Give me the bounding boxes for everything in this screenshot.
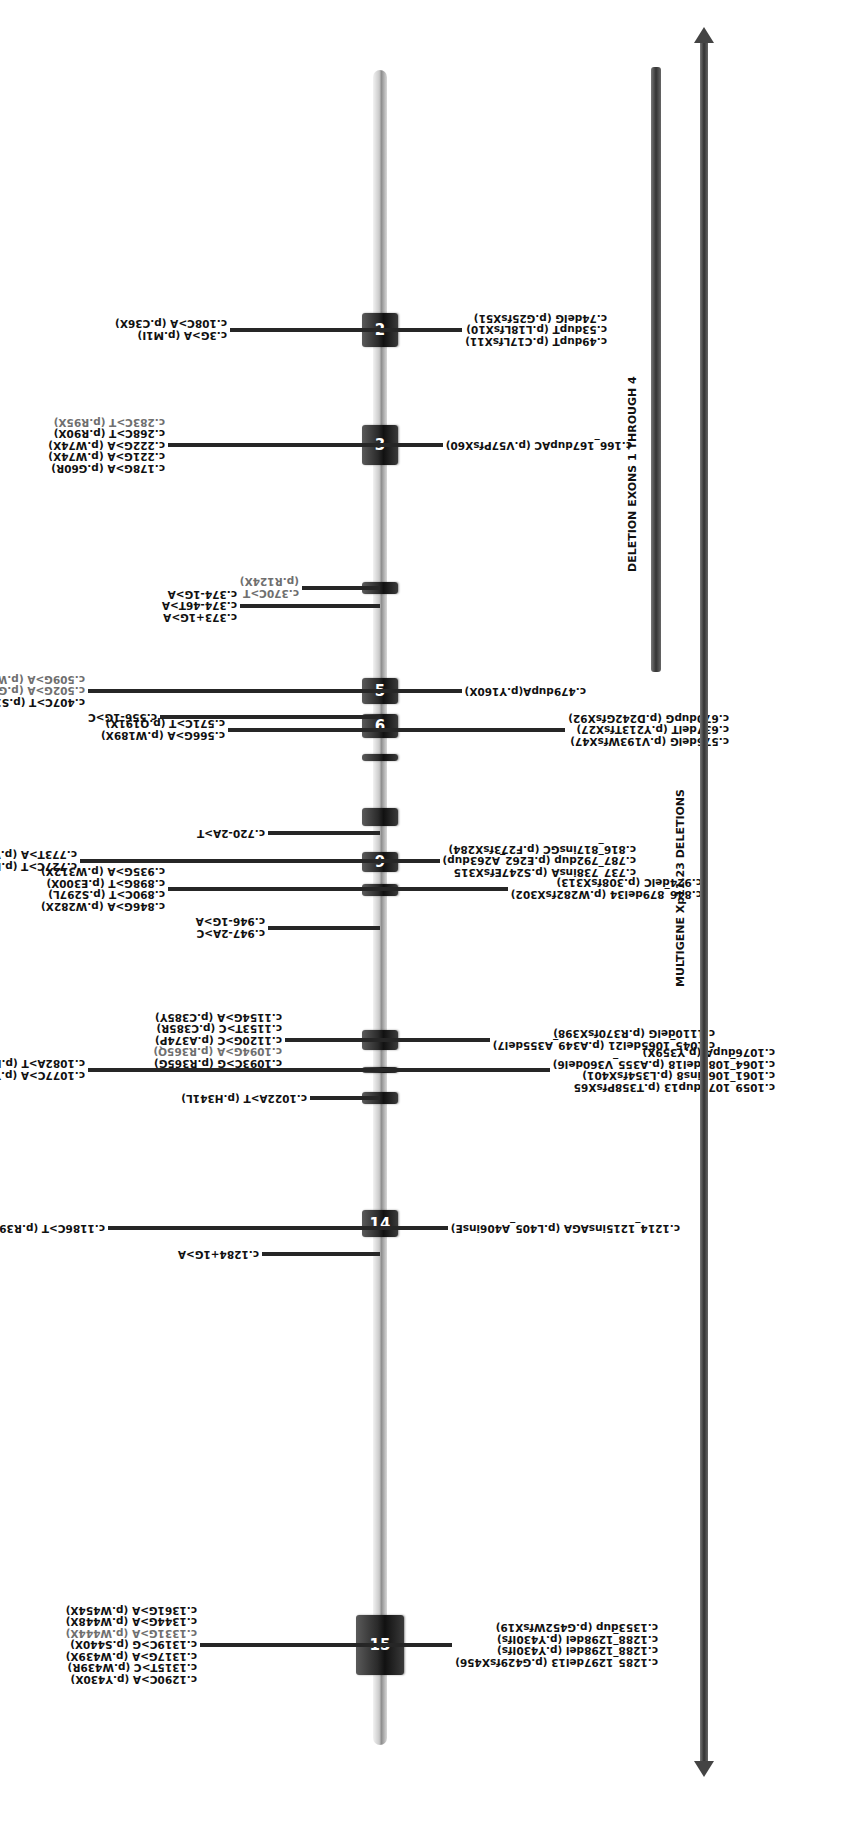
- mutation-label-exon3-top: c.178G>A (p.G60R)c.221G>A (p.W74X)c.222G…: [48, 417, 165, 475]
- mutation-text: c.509G>A (p.W170X): [0, 674, 85, 686]
- mutation-label-c1284: c.1284+1G>A: [178, 1249, 259, 1261]
- mutation-stem: [108, 1226, 380, 1230]
- mutation-text: c.846G>A (p.W282X): [41, 901, 165, 913]
- mutation-stem: [380, 728, 565, 732]
- mutation-text: c.1361G>A (p.W454X): [66, 1605, 197, 1617]
- mutation-label-exon13-top: c.1093C>G (p.R365G)c.1094G>A (p.R365Q)c.…: [153, 1012, 282, 1070]
- mutation-text: c.898G>T (p.E300X): [41, 878, 165, 890]
- mutation-stem: [230, 328, 380, 332]
- mutation-text: c.1154G>A (p.C385Y): [153, 1012, 282, 1024]
- mutation-text: c.502G>A (p.G168R): [0, 686, 85, 698]
- mutation-stem: [380, 1038, 490, 1042]
- mutation-label-exon2-bottom: c.49dupT (p.C17LfsX11)c.53dupT (p.L18Lfs…: [465, 313, 607, 348]
- mutation-text: c.374-1G>A: [162, 589, 237, 601]
- mutation-text: c.787_792dup (p.E262_A263dup): [443, 856, 636, 868]
- mutation-label-exon14-bottom: c.1214_1215insAGA (p.L405_A406insE): [451, 1223, 680, 1235]
- mutation-stem: [268, 831, 380, 835]
- exon-14: 14: [362, 1210, 398, 1237]
- mutation-label-c370: c.370C>T(p.R124X): [240, 577, 299, 600]
- mutation-text: c.1288_1298del (p.Y430Ifs): [455, 1634, 658, 1646]
- mutation-text: c.816_817insGC (p.F273fsX284): [443, 844, 636, 856]
- mutation-text: c.268C>T (p.R90X): [48, 428, 165, 440]
- mutation-text: c.1319C>G (p.S440X): [66, 1640, 197, 1652]
- mutation-text: c.1353dup (p.G452WfsX19): [455, 1622, 658, 1634]
- mutation-stem: [380, 859, 440, 863]
- mutation-label-exon12-bottom: c.1059_1071dup13 (p.T358PfsX65c.1061_106…: [553, 1047, 775, 1093]
- mutation-text: c.1285_1297del13 (p.G429fsX456): [455, 1657, 658, 1669]
- mutation-stem: [228, 728, 380, 732]
- mutation-label-exon9-bottom: c.737_738insA (p.S247EfsX315c.787_792dup…: [443, 844, 636, 879]
- mutation-label-c1022: c.1022A>T (p.H341L): [181, 1093, 307, 1105]
- mutation-label-exon12-top: c.1077C>A (p.Y359X)c.1082A>T (p.E361V): [0, 1059, 85, 1082]
- mutation-stem: [380, 1068, 550, 1072]
- mutation-text: c.1064_1081del18 (p.A355_V360del6): [553, 1059, 775, 1071]
- mutation-text: c.1214_1215insAGA (p.L405_A406insE): [451, 1223, 680, 1235]
- mutation-text: c.370C>T: [240, 588, 299, 600]
- mutation-label-intron4-top: c.373+1G>Ac.374-46T>Ac.374-1G>A: [162, 589, 237, 624]
- mutation-label-exon14-top: c.1186C>T (p.R396X): [0, 1223, 105, 1235]
- deletion-exons-1-4-bar: [651, 67, 661, 672]
- mutation-stem: [80, 859, 380, 863]
- mutation-stem: [88, 689, 380, 693]
- multigene-deletion-label: MULTIGENE Xp11.23 DELETIONS: [674, 789, 687, 987]
- mutation-text: c.1284+1G>A: [178, 1249, 259, 1261]
- mutation-text: c.1059_1071dup13 (p.T358PfsX65: [553, 1082, 775, 1094]
- mutation-stem: [380, 1226, 448, 1230]
- mutation-text: c.1094G>A (p.R365Q): [153, 1046, 282, 1058]
- arrow-left-icon: [694, 1761, 714, 1777]
- mutation-label-exon5-bottom: c.479dupA(p.Y160X): [465, 686, 586, 698]
- mutation-text: c.1317G>A (p.W439X): [66, 1651, 197, 1663]
- mutation-stem: [240, 604, 380, 608]
- mutation-label-exon2-top: c.3G>A (p.M1I)c.108C>A (p.C36X): [115, 319, 227, 342]
- mutation-stem: [380, 689, 462, 693]
- arrow-right-icon: [694, 27, 714, 43]
- mutation-text: c.1344G>A (p.W448X): [66, 1617, 197, 1629]
- mutation-stem: [285, 1038, 380, 1042]
- mutation-text: c.53dupT (p.L18LfsX10): [465, 325, 607, 337]
- gene-diagram-canvas: 235691415 c.3G>A (p.M1I)c.108C>A (p.C36X…: [0, 0, 852, 1837]
- mutation-text: c.178G>A (p.G60R): [48, 463, 165, 475]
- mutation-text: c.1082A>T (p.E361V): [0, 1059, 85, 1071]
- mutation-stem: [302, 586, 380, 590]
- mutation-text: c.74delG (p.G25fsX51): [465, 313, 607, 325]
- mutation-text: c.166_167dupAC (p.V57PfsX60): [446, 440, 632, 452]
- mutation-text: (p.R124X): [240, 577, 299, 589]
- mutation-text: c.479dupA(p.Y160X): [465, 686, 586, 698]
- mutation-text: c.221G>A (p.W74X): [48, 451, 165, 463]
- mutation-stem: [310, 1096, 380, 1100]
- mutation-label-c720: c.720-2A>T: [197, 828, 265, 840]
- mutation-text: c.374-46T>A: [162, 601, 237, 613]
- mutation-text: c.1077C>A (p.Y359X): [0, 1070, 85, 1082]
- mutation-text: c.1045_1065del21 (p.A349_A355del7): [493, 1040, 715, 1052]
- mutation-stem: [262, 1252, 380, 1256]
- exon-number: 6: [375, 717, 385, 735]
- exon-unlabeled: [362, 808, 398, 826]
- mutation-text: c.1315T>C (p.W439R): [66, 1663, 197, 1675]
- mutation-text: c.3G>A (p.M1I): [115, 330, 227, 342]
- multigene-deletion-bar: [700, 41, 708, 1763]
- mutation-text: c.1153T>C (p.C385R): [153, 1023, 282, 1035]
- mutation-text: c.1110delG (p.R370fsX398): [493, 1029, 715, 1041]
- mutation-text: c.1022A>T (p.H341L): [181, 1093, 307, 1105]
- mutation-stem: [200, 1643, 380, 1647]
- mutation-label-exon3-bottom: c.166_167dupAC (p.V57PfsX60): [446, 440, 632, 452]
- mutation-text: c.407C>T (p.S136F): [0, 697, 85, 709]
- mutation-text: c.222G>A (p.W74X): [48, 440, 165, 452]
- mutation-text: c.571C>T (p.Q191X): [101, 719, 225, 731]
- mutation-text: c.1288_1298del (p.Y430Ifs): [455, 1645, 658, 1657]
- mutation-text: c.1186C>T (p.R396X): [0, 1223, 105, 1235]
- deletion-exons-1-4-label: DELETION EXONS 1 THROUGH 4: [626, 376, 639, 572]
- mutation-text: c.49dupT (p.C17LfsX11): [465, 336, 607, 348]
- mutation-text: c.946-1G>A: [196, 917, 265, 929]
- mutation-stem: [268, 926, 380, 930]
- mutation-label-exon5-top: c.407C>T (p.S136F)c.502G>A (p.G168R)c.50…: [0, 674, 85, 709]
- mutation-stem: [168, 887, 380, 891]
- mutation-stem: [380, 328, 462, 332]
- mutation-text: c.935G>A (p.W312X): [41, 866, 165, 878]
- mutation-text: c.1093C>G (p.R365G): [153, 1058, 282, 1070]
- mutation-label-exon10-top: c.846G>A (p.W282X)c.890C>T (p.S297L)c.89…: [41, 866, 165, 912]
- mutation-text: c.947-2A>C: [196, 928, 265, 940]
- mutation-stem: [168, 443, 380, 447]
- mutation-label-exon6-top: c.566G>A (p.W189X)c.571C>T (p.Q191X): [101, 719, 225, 742]
- mutation-stem: [380, 443, 443, 447]
